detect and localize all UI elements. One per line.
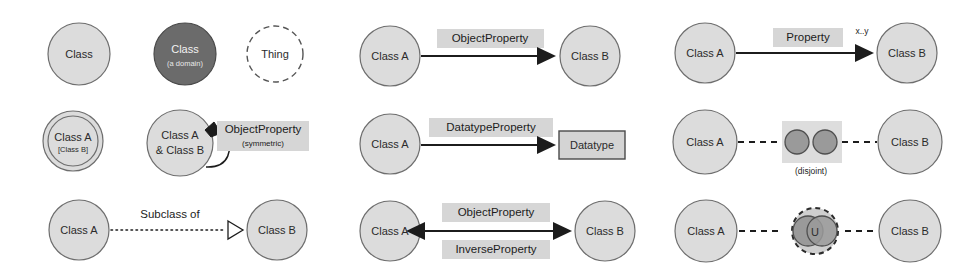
property-cardinality-label: x..y [855,26,869,36]
cardinality-source-class-node[interactable]: Class A [675,23,735,83]
union-target-label: Class B [891,225,929,237]
class-domain-node-label: Class [171,43,199,55]
disjoint-caption: (disjoint) [795,166,827,176]
datatype-node[interactable]: Datatype [559,131,625,159]
union-source-label: Class A [687,225,725,237]
cardinality-source-label: Class A [686,47,724,59]
datatype-property-arrowhead [537,136,556,154]
column-left-row-class-variants: Class Class (a domain) Thing [48,23,303,85]
disjoint-source-label: Class A [686,136,724,148]
column-right-row-cardinality-property: Class A Property x..y Class B [675,23,937,83]
thing-node[interactable]: Thing [247,26,303,82]
inverse-property-label-above: ObjectProperty [458,206,535,218]
objectproperty-target-label: Class B [571,50,609,62]
column-middle-row-datatype-property: Class A DatatypeProperty Datatype [360,114,625,174]
column-middle-row-object-property: Class A ObjectProperty Class B [360,26,620,86]
inverseproperty-target-class-node[interactable]: Class B [575,201,635,261]
equivalent-class-node-sublabel: [Class B] [58,145,88,154]
objectproperty-target-class-node[interactable]: Class B [560,26,620,86]
object-property-edge[interactable]: ObjectProperty [421,29,556,65]
inverseproperty-target-label: Class B [586,225,624,237]
subclass-of-edge[interactable]: Subclass of [111,208,243,239]
column-middle-row-inverse-property: Class A ObjectProperty InverseProperty C… [360,201,635,261]
property-arrowhead [855,44,874,62]
thing-node-label: Thing [261,48,289,60]
subclass-source-label: Class A [60,224,98,236]
inverseproperty-source-label: Class A [371,225,409,237]
subclass-source-class-node[interactable]: Class A [49,200,109,260]
subclass-target-class-node[interactable]: Class B [247,200,307,260]
disjoint-target-label: Class B [891,136,929,148]
datatype-property-label: DatatypeProperty [446,121,536,133]
column-left-row-subclass: Class A Subclass of Class B [49,200,307,260]
inverse-property-label-below: InverseProperty [455,243,536,255]
class-domain-node[interactable]: Class (a domain) [154,23,216,85]
disjoint-target-class-node[interactable]: Class B [878,110,942,174]
merged-class-node[interactable]: Class A & Class B [147,110,213,176]
subclass-target-label: Class B [258,224,296,236]
inverse-property-arrowhead-right [553,222,572,240]
class-node-label: Class [65,48,93,60]
equivalent-class-node-label: Class A [54,131,92,143]
disjoint-circle-right [813,130,837,154]
property-cardinality-edge[interactable]: Property x..y [736,26,874,62]
column-left-row-equivalent-and-symmetric: Class A [Class B] Class A & Class B Obje… [43,110,309,176]
symmetric-object-property-sublabel: (symmetric) [242,139,284,148]
equivalent-class-node[interactable]: Class A [Class B] [43,111,103,171]
merged-class-node-label-line1: Class A [161,129,199,141]
objectproperty-source-label: Class A [371,50,409,62]
subclass-of-label: Subclass of [140,208,200,220]
cardinality-target-label: Class B [888,47,926,59]
cardinality-target-class-node[interactable]: Class B [877,23,937,83]
object-property-arrowhead [537,47,556,65]
datatypeproperty-source-label: Class A [371,138,409,150]
class-domain-node-sublabel: (a domain) [167,59,203,68]
datatype-node-label: Datatype [570,139,614,151]
disjoint-circle-left [785,130,809,154]
objectproperty-source-class-node[interactable]: Class A [360,26,420,86]
disjoint-source-class-node[interactable]: Class A [673,110,737,174]
union-target-class-node[interactable]: Class B [879,200,941,262]
symmetric-object-property-edge[interactable]: ObjectProperty (symmetric) [205,121,309,167]
column-right-row-union: Class A U Class B [675,200,941,262]
column-right-row-disjoint: Class A (disjoint) Class B [673,110,942,176]
datatypeproperty-source-class-node[interactable]: Class A [360,114,420,174]
union-edge[interactable]: U [739,208,878,254]
object-property-label: ObjectProperty [452,32,529,44]
disjoint-edge[interactable]: (disjoint) [738,121,877,176]
property-label: Property [786,31,830,43]
merged-class-node-label-line2: & Class B [156,144,204,156]
subclass-hollow-triangle [228,221,243,239]
union-source-class-node[interactable]: Class A [675,200,737,262]
symmetric-object-property-label: ObjectProperty [225,123,302,135]
inverse-property-edge[interactable]: ObjectProperty InverseProperty [406,203,572,259]
union-symbol-glyph: U [811,226,819,238]
class-node[interactable]: Class [48,23,110,85]
datatype-property-edge[interactable]: DatatypeProperty [421,118,556,154]
ontology-notation-legend: Class Class (a domain) Thing Class A [Cl… [0,0,980,276]
